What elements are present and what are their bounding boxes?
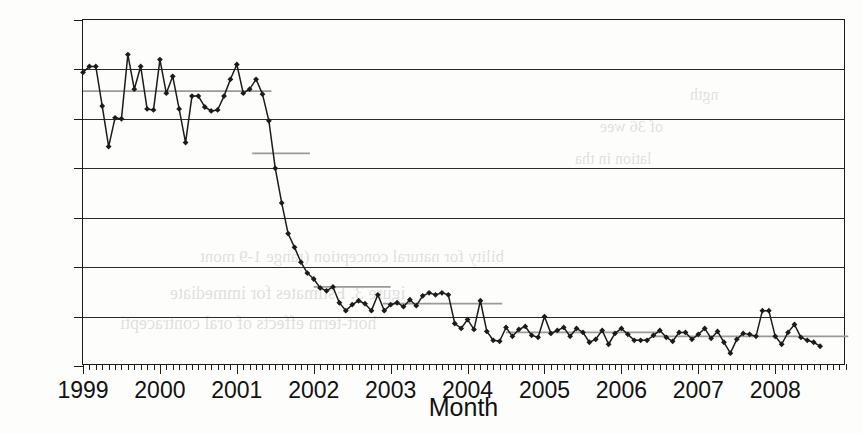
data-series-line (83, 20, 846, 366)
data-point-marker (542, 314, 548, 320)
y-tick-mark (74, 119, 83, 120)
x-axis-label: Month (82, 393, 845, 422)
data-point-marker (760, 308, 766, 314)
y-tick-mark (74, 168, 83, 169)
data-point-marker (157, 57, 163, 63)
data-point-marker (228, 76, 234, 82)
data-point-marker (221, 93, 227, 99)
data-point-marker (535, 334, 541, 340)
data-point-marker (170, 73, 176, 79)
data-point-marker (272, 165, 278, 171)
y-tick-mark (74, 317, 83, 318)
data-point-marker (125, 52, 131, 58)
data-point-marker (131, 86, 137, 92)
y-tick-mark (74, 218, 83, 219)
data-point-marker (119, 116, 125, 122)
data-point-marker (477, 298, 483, 304)
data-point-marker (189, 93, 195, 99)
data-point-marker (798, 334, 804, 340)
y-tick-mark (74, 267, 83, 268)
series-polyline (83, 55, 820, 354)
data-point-marker (753, 333, 759, 339)
data-point-marker (112, 115, 118, 121)
data-point-marker (747, 331, 753, 337)
data-point-marker (215, 107, 221, 113)
data-point-marker (163, 90, 169, 96)
data-point-marker (285, 231, 291, 237)
data-point-marker (445, 292, 451, 298)
data-point-marker (138, 64, 144, 70)
y-tick-mark (74, 20, 83, 21)
data-point-marker (151, 107, 157, 113)
data-point-marker (183, 140, 189, 146)
data-point-marker (106, 144, 112, 150)
data-point-marker (266, 118, 272, 124)
data-point-marker (554, 328, 560, 334)
data-point-marker (375, 292, 381, 298)
data-point-marker (439, 290, 445, 296)
data-point-marker (292, 244, 298, 250)
data-point-marker (234, 62, 240, 68)
data-point-marker (176, 106, 182, 112)
y-tick-mark (74, 366, 83, 367)
data-point-marker (279, 200, 285, 206)
chart-figure: ngthof 36 weelation in thability for nat… (0, 0, 863, 434)
data-point-marker (638, 337, 644, 343)
data-point-marker (804, 337, 810, 343)
data-point-marker (433, 292, 439, 298)
data-point-marker (426, 290, 432, 296)
data-point-marker (144, 106, 150, 112)
y-tick-mark (74, 69, 83, 70)
data-point-marker (99, 103, 105, 109)
plot-area: 05101520253035 1999200020012002200320042… (82, 19, 845, 365)
data-point-marker (93, 64, 99, 70)
data-point-marker (766, 308, 772, 314)
data-point-marker (497, 338, 503, 344)
data-point-marker (548, 330, 554, 336)
data-point-marker (260, 91, 266, 97)
